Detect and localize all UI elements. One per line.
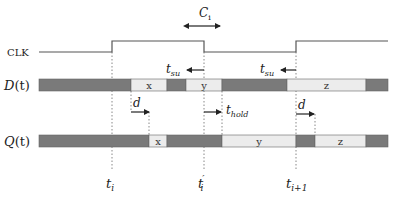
signal-segment-undefined — [167, 135, 222, 147]
q-signal-bar: xyz — [39, 135, 388, 147]
signal-value-label: z — [324, 80, 329, 91]
time-label-ti: ti — [106, 176, 114, 193]
d-signal-bar: xyz — [39, 79, 388, 91]
signal-segment-undefined — [366, 135, 388, 147]
signal-value-label: z — [338, 136, 343, 147]
tsu-label-2: tsu — [260, 62, 274, 78]
signal-segment-undefined — [39, 79, 131, 91]
signal-value-label: y — [255, 136, 262, 147]
signal-segment-undefined — [222, 79, 287, 91]
d-signal-label: D(t) — [3, 78, 30, 93]
tsu-annotation-2: tsu — [260, 62, 296, 78]
timing-diagram: CLK D(t) xyz Q(t) xyz Ci tsu tsu d d — [0, 0, 395, 203]
time-label-ti1: ti+1 — [286, 176, 307, 193]
signal-value-label: x — [155, 136, 161, 147]
clk-waveform — [39, 41, 388, 52]
time-label-ti-prime: t′i — [198, 173, 205, 193]
clk-label: CLK — [7, 47, 29, 58]
signal-value-label: x — [146, 80, 152, 91]
thold-annotation: thold — [204, 103, 248, 119]
q-signal-label: Q(t) — [4, 134, 30, 149]
signal-segment-undefined — [296, 135, 315, 147]
thold-label: thold — [226, 103, 248, 119]
signal-value-label: y — [200, 80, 207, 91]
signal-segment-undefined — [39, 135, 149, 147]
d-delay-label-2: d — [298, 98, 306, 112]
d-delay-label-1: d — [133, 96, 141, 110]
signal-segment-undefined — [366, 79, 388, 91]
ci-label: Ci — [199, 6, 211, 22]
tsu-label-1: tsu — [166, 62, 180, 78]
ci-annotation: Ci — [188, 6, 220, 26]
tsu-annotation-1: tsu — [166, 62, 204, 78]
d-delay-annotation-1: d — [131, 96, 149, 112]
signal-segment-undefined — [167, 79, 186, 91]
d-delay-annotation-2: d — [296, 98, 314, 114]
